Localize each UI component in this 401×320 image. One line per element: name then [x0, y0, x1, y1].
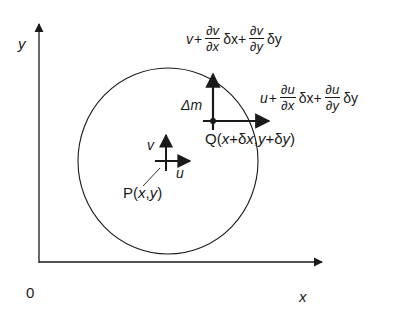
v-expr-frac2-num: ∂v — [249, 24, 264, 39]
v-expr-term1: δx+ — [223, 32, 246, 46]
point-p-label: P(x,y) — [123, 185, 162, 200]
u-expr-frac-dx: ∂u ∂x — [280, 83, 296, 112]
u-expr-frac1-num: ∂u — [280, 83, 296, 98]
q-point-dot — [210, 118, 216, 124]
u-expr-term2: δy — [343, 91, 358, 105]
u-expr-plus: + — [269, 91, 277, 105]
v-expr-lead: v — [186, 32, 193, 46]
p-label-prefix: P( — [123, 184, 138, 201]
mass-label: Δm — [181, 98, 202, 112]
origin-label: 0 — [26, 285, 34, 300]
q-label-x2: x — [246, 130, 254, 147]
q-label-y2: y — [283, 130, 291, 147]
y-axis-label: y — [18, 36, 26, 51]
p-u-label: u — [176, 166, 184, 180]
v-expr-frac2-den: ∂y — [250, 39, 263, 53]
v-expr-frac1-num: ∂v — [205, 24, 220, 39]
point-q-label: Q(x+δx,y+δy) — [205, 131, 295, 146]
q-label-suffix: ) — [290, 130, 295, 147]
q-label-prefix: Q( — [205, 130, 222, 147]
u-expression: u + ∂u ∂x δx+ ∂u ∂y δy — [260, 83, 358, 112]
v-expr-frac1-den: ∂x — [206, 39, 219, 53]
u-expr-frac2-num: ∂u — [325, 83, 341, 98]
x-axis-label: x — [299, 289, 307, 304]
q-label-plus-delta-1: +δ — [229, 130, 246, 147]
v-expr-plus: + — [194, 32, 202, 46]
p-label-x: x — [138, 184, 146, 201]
v-expr-frac-dy: ∂v ∂y — [249, 24, 264, 53]
q-label-plus-delta-2: +δ — [265, 130, 282, 147]
u-expr-frac1-den: ∂x — [281, 98, 294, 112]
u-expr-term1: δx+ — [299, 91, 322, 105]
v-expression: v + ∂v ∂x δx+ ∂v ∂y δy — [186, 24, 282, 53]
u-expr-lead: u — [260, 91, 268, 105]
mass-label-text: Δm — [181, 97, 202, 113]
p-v-label: v — [147, 138, 154, 152]
u-expr-frac-dy: ∂u ∂y — [325, 83, 341, 112]
u-expr-frac2-den: ∂y — [326, 98, 339, 112]
v-expr-frac-dx: ∂v ∂x — [205, 24, 220, 53]
p-label-suffix: ) — [157, 184, 162, 201]
v-expr-term2: δy — [267, 32, 282, 46]
